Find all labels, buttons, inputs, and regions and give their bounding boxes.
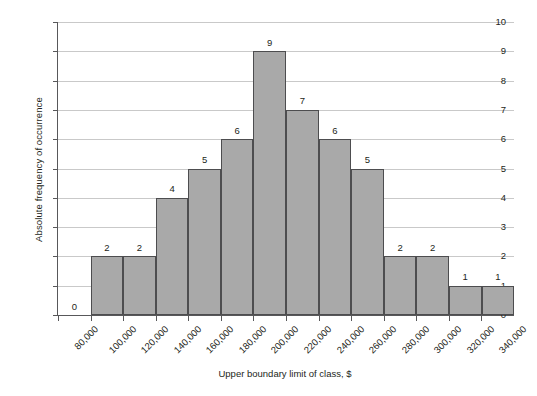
x-tick-mark xyxy=(123,315,124,321)
x-tick-label: 120,000 xyxy=(139,324,170,355)
x-tick-label: 340,000 xyxy=(497,324,528,355)
x-tick-label: 100,000 xyxy=(107,324,138,355)
x-tick-mark xyxy=(481,315,482,321)
x-tick-mark xyxy=(156,315,157,321)
x-tick-mark xyxy=(58,315,59,321)
x-tick-label: 320,000 xyxy=(465,324,496,355)
x-tick-mark xyxy=(449,315,450,321)
x-tick-label: 240,000 xyxy=(335,324,366,355)
x-tick-label: 220,000 xyxy=(302,324,333,355)
x-tick-label: 140,000 xyxy=(172,324,203,355)
x-tick-mark xyxy=(221,315,222,321)
x-tick-mark xyxy=(253,315,254,321)
plot-area: 109876543210 02245697652211 80,000100,00… xyxy=(57,22,514,316)
x-tick-label: 300,000 xyxy=(432,324,463,355)
x-tick-label: 280,000 xyxy=(400,324,431,355)
x-tick-mark xyxy=(286,315,287,321)
x-axis-title: Upper boundary limit of class, $ xyxy=(57,368,513,379)
x-tick-mark xyxy=(319,315,320,321)
x-tick-label: 160,000 xyxy=(204,324,235,355)
x-tick-mark xyxy=(416,315,417,321)
x-tick-label: 180,000 xyxy=(237,324,268,355)
x-tick-label: 260,000 xyxy=(367,324,398,355)
x-tick-label: 80,000 xyxy=(73,324,100,351)
x-tick-mark xyxy=(188,315,189,321)
histogram-figure: Absolute frequency of occurrence 1098765… xyxy=(0,0,537,396)
y-axis-title: Absolute frequency of occurrence xyxy=(33,50,44,290)
x-tick-mark xyxy=(384,315,385,321)
x-tick-label: 200,000 xyxy=(269,324,300,355)
x-axis-ticks: 80,000100,000120,000140,000160,000180,00… xyxy=(58,22,514,315)
x-tick-mark xyxy=(91,315,92,321)
x-tick-mark xyxy=(351,315,352,321)
